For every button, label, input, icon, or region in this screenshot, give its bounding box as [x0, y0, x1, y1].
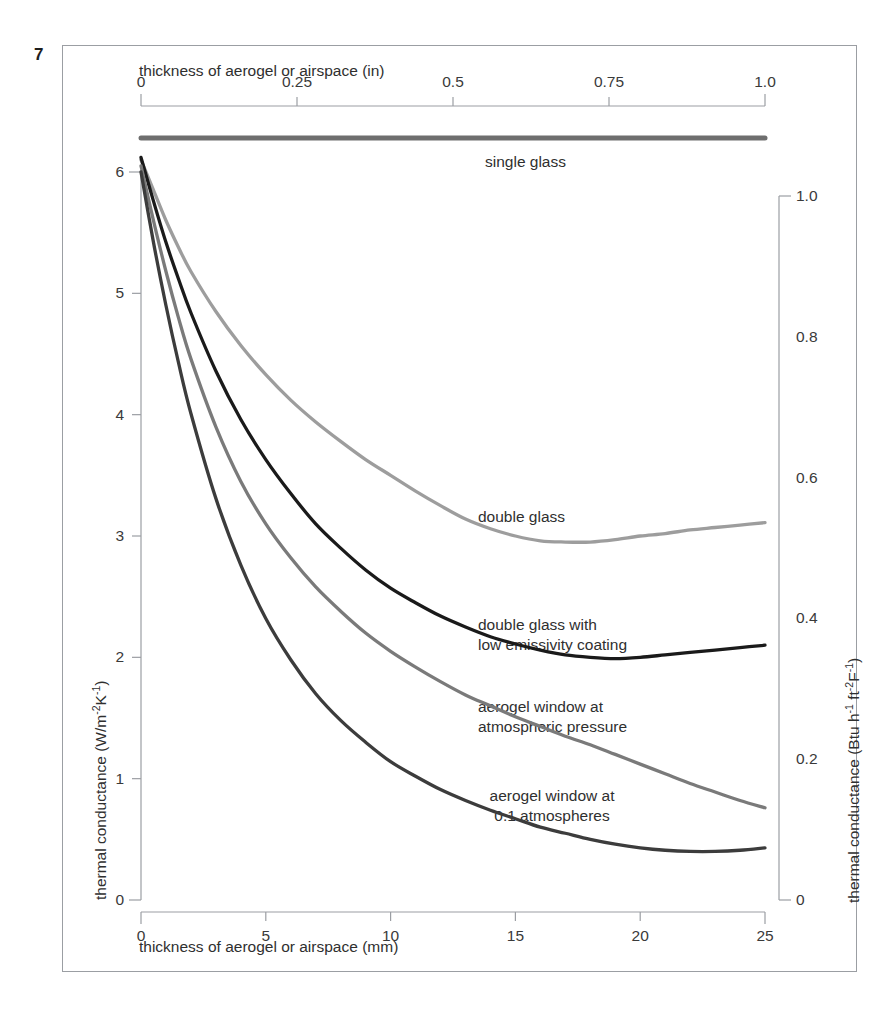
left-axis-title-part-3: -1: [90, 686, 102, 695]
right-axis-title-part-1: -1: [843, 704, 855, 713]
top-tick-0.75: 0.75: [594, 73, 624, 91]
right-tick-0.4: 0.4: [796, 609, 818, 627]
top-tick-1.0: 1.0: [754, 73, 776, 91]
plot-frame: [62, 45, 857, 972]
top-tick-0.25: 0.25: [282, 73, 312, 91]
curve-label-aerogel-atmospheric: aerogel window at atmospheric pressure: [478, 697, 627, 737]
curve-label-double-glass-low-emissivity: double glass with low emissivity coating: [478, 615, 627, 655]
bottom-tick-15: 15: [507, 927, 524, 945]
left-axis-title-part-2: K: [92, 695, 109, 705]
right-axis-title-part-5: -1: [843, 663, 855, 672]
curve-label-aerogel-0.1-atmospheres: aerogel window at 0.1 atmospheres: [490, 786, 615, 826]
left-axis-title-part-0: thermal conductance (W/m: [92, 715, 109, 900]
left-tick-3: 3: [115, 527, 124, 545]
right-axis-title-part-4: F: [845, 672, 862, 681]
right-tick-0: 0: [796, 891, 805, 909]
right-tick-0.6: 0.6: [796, 469, 818, 487]
right-tick-0.8: 0.8: [796, 328, 818, 346]
right-axis-title-part-0: thermal conductance (Btu h: [845, 713, 862, 903]
left-tick-2: 2: [115, 648, 124, 666]
figure-container: 7 thickness of aerogel or airspace (in) …: [0, 0, 884, 1030]
bottom-tick-0: 0: [137, 927, 146, 945]
right-tick-1.0: 1.0: [796, 187, 818, 205]
right-axis-title: thermal conductance (Btu h-1 ft-2F-1): [843, 658, 863, 903]
top-tick-0: 0: [137, 73, 146, 91]
right-tick-0.2: 0.2: [796, 750, 818, 768]
left-axis-title: thermal conductance (W/m-2K-1): [90, 681, 110, 900]
top-axis-title: thickness of aerogel or airspace (in): [139, 62, 385, 80]
bottom-tick-20: 20: [632, 927, 649, 945]
top-tick-0.5: 0.5: [442, 73, 464, 91]
curve-label-double-glass: double glass: [478, 507, 565, 527]
bottom-tick-5: 5: [261, 927, 270, 945]
left-axis-title-part-4: ): [92, 681, 109, 686]
right-axis-title-part-6: ): [845, 658, 862, 663]
left-tick-1: 1: [115, 770, 124, 788]
bottom-tick-25: 25: [756, 927, 773, 945]
right-axis-title-part-3: -2: [843, 682, 855, 691]
figure-number: 7: [34, 45, 43, 65]
left-tick-6: 6: [115, 163, 124, 181]
right-axis-title-part-2: ft: [845, 691, 862, 704]
bottom-tick-10: 10: [382, 927, 399, 945]
left-tick-4: 4: [115, 406, 124, 424]
curve-label-single-glass: single glass: [485, 152, 566, 172]
left-tick-0: 0: [115, 891, 124, 909]
left-tick-5: 5: [115, 284, 124, 302]
left-axis-title-part-1: -2: [90, 705, 102, 714]
